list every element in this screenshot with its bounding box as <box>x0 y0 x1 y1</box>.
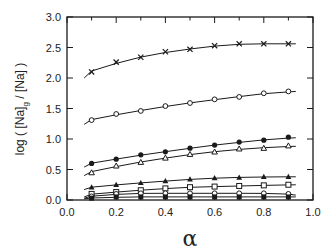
y-tick-label: 2.5 <box>46 42 61 54</box>
open-triangle-marker <box>286 143 292 148</box>
open-circle-marker <box>163 104 168 109</box>
x-tick-label: 0.6 <box>207 206 222 218</box>
filled-triangle-marker <box>261 174 267 179</box>
cross-marker <box>89 69 94 74</box>
y-tick-label: 0.5 <box>46 164 61 176</box>
y-tick-label: 1.0 <box>46 133 61 145</box>
y-tick-label: 3.0 <box>46 11 61 23</box>
chart-figure: 0.00.20.40.60.81.00.00.51.01.52.02.53.0 … <box>0 0 334 252</box>
open-circle-marker <box>237 95 242 100</box>
open-square-marker <box>188 185 193 190</box>
open-triangle-marker <box>113 163 119 168</box>
filled-circle-marker <box>212 143 217 148</box>
open-triangle-marker <box>138 159 144 164</box>
filled-circle-marker <box>89 161 94 166</box>
open-circle-marker <box>286 89 291 94</box>
filled-circle-marker <box>187 146 192 151</box>
x-tick-label: 0.8 <box>256 206 271 218</box>
y-tick-label: 0.0 <box>46 194 61 206</box>
filled-square-marker <box>138 194 143 199</box>
filled-square-marker <box>188 194 193 199</box>
open-square-marker <box>212 184 217 189</box>
open-triangle-marker <box>261 145 267 150</box>
filled-square-marker <box>89 196 94 201</box>
x-axis-label: α <box>183 226 198 251</box>
tick-labels: 0.00.20.40.60.81.00.00.51.01.52.02.53.0 <box>46 11 321 218</box>
plot-frame <box>67 17 313 200</box>
filled-square-marker <box>212 194 217 199</box>
x-tick-label: 1.0 <box>305 206 320 218</box>
y-axis-label: log ( [Na]g / [Na] ) <box>13 63 30 155</box>
open-triangle-marker <box>163 155 169 160</box>
cross-marker <box>114 60 119 65</box>
filled-square-marker <box>163 194 168 199</box>
filled-circle-marker <box>286 135 291 140</box>
axis-ticks <box>67 17 313 200</box>
filled-circle-marker <box>237 139 242 144</box>
filled-circle-marker <box>114 157 119 162</box>
filled-circle-marker <box>261 138 266 143</box>
open-square-marker <box>261 183 266 188</box>
open-circle-marker <box>188 101 193 106</box>
y-tick-label: 2.0 <box>46 72 61 84</box>
open-circle-marker <box>114 112 119 117</box>
open-circle-marker <box>89 118 94 123</box>
filled-square-marker <box>261 194 266 199</box>
open-square-marker <box>163 186 168 191</box>
open-triangle-marker <box>187 151 193 156</box>
open-circle-marker <box>138 109 143 114</box>
x-tick-label: 0.0 <box>59 206 74 218</box>
open-circle-marker <box>212 97 217 102</box>
open-triangle-marker <box>212 149 218 154</box>
fit-curve-open-circle <box>84 91 296 124</box>
x-tick-label: 0.2 <box>109 206 124 218</box>
open-square-marker <box>286 182 291 187</box>
y-tick-label: 1.5 <box>46 103 61 115</box>
open-triangle-marker <box>236 146 242 151</box>
x-tick-label: 0.4 <box>158 206 173 218</box>
filled-circle-marker <box>138 152 143 157</box>
open-square-marker <box>237 183 242 188</box>
filled-square-marker <box>114 194 119 199</box>
filled-circle-marker <box>163 149 168 154</box>
filled-square-marker <box>286 194 291 199</box>
open-triangle-marker <box>89 170 95 175</box>
open-circle-marker <box>261 91 266 96</box>
filled-square-marker <box>237 194 242 199</box>
